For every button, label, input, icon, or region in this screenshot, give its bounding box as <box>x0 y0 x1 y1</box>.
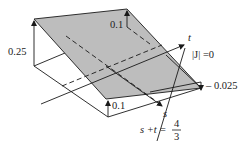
constraint-denominator: 3 <box>174 131 179 142</box>
label-height-back-right: 0.1 <box>110 19 123 30</box>
label-axis-t: t <box>188 32 192 43</box>
label-height-back-left: 0.25 <box>8 46 26 57</box>
constraint-equation: s +t = 4 3 <box>140 118 181 142</box>
label-jacobian-zero: |J| =0 <box>192 49 214 60</box>
label-height-front-right: – 0.025 <box>205 80 238 91</box>
surface-diagram: 0.25 0.1 0.1 – 0.025 t s |J| =0 s +t = 4… <box>0 0 248 151</box>
constraint-lhs: s +t = <box>140 124 166 135</box>
label-height-front-left: 0.1 <box>112 100 125 111</box>
constraint-numerator: 4 <box>174 118 180 129</box>
label-axis-s: s <box>163 108 167 119</box>
